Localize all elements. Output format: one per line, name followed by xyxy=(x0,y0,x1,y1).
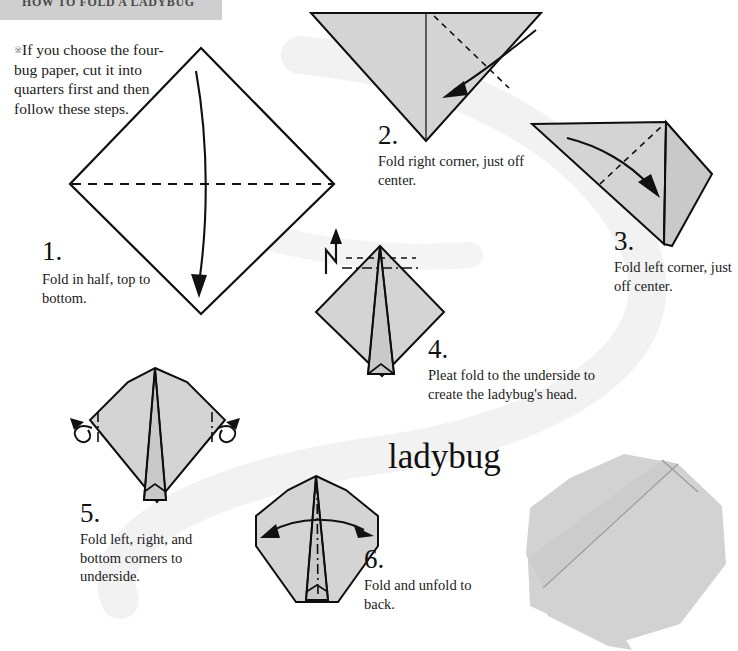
step-6-caption: Fold and unfold to back. xyxy=(364,576,504,613)
step-4-caption: Pleat fold to the underside to create th… xyxy=(428,366,618,403)
step-1-number: 1. xyxy=(42,238,62,265)
origami-instruction-page: HOW TO FOLD A LADYBUG ※If you choose the… xyxy=(0,0,738,651)
step-5-number: 5. xyxy=(80,500,100,527)
step-5-diagram xyxy=(62,360,248,512)
step-3-number: 3. xyxy=(614,228,634,255)
step-1-caption: Fold in half, top to bottom. xyxy=(42,270,187,307)
finished-model-photo xyxy=(512,440,738,651)
model-name: ladybug xyxy=(388,438,501,476)
step-5-caption: Fold left, right, and bottom corners to … xyxy=(80,530,220,586)
header-title: HOW TO FOLD A LADYBUG xyxy=(22,0,222,10)
step-3-caption: Fold left corner, just off center. xyxy=(614,258,738,295)
step-4-number: 4. xyxy=(428,336,448,363)
step-2-number: 2. xyxy=(378,122,398,149)
step-2-diagram xyxy=(306,8,546,148)
step-6-number: 6. xyxy=(364,546,384,573)
intro-bullet-icon: ※ xyxy=(14,44,22,55)
